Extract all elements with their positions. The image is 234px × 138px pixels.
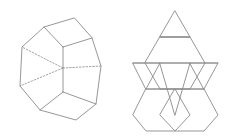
canvas-background <box>0 0 234 138</box>
geometry-figure-canvas: Truncated tetrahedron and its net <box>0 0 234 138</box>
